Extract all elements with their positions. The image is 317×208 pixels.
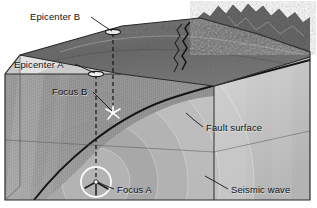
label-focus-b: Focus B	[52, 86, 88, 97]
label-epicenter-a: Epicenter A	[14, 59, 64, 70]
diagram-canvas: Epicenter B Epicenter B Epicenter A Epic…	[0, 0, 317, 208]
epicenter-a-marker	[89, 71, 104, 76]
label-focus-a: Focus A	[117, 184, 153, 195]
block-diagram-svg: Epicenter B Epicenter B Epicenter A Epic…	[0, 0, 317, 208]
label-fault-surface: Fault surface	[206, 122, 262, 133]
epicenter-b-marker	[106, 29, 121, 34]
label-seismic-wave: Seismic wave	[231, 184, 290, 195]
label-epicenter-b: Epicenter B	[30, 11, 80, 22]
earth-block	[0, 4, 312, 208]
leader-epicenter-b	[91, 17, 112, 31]
